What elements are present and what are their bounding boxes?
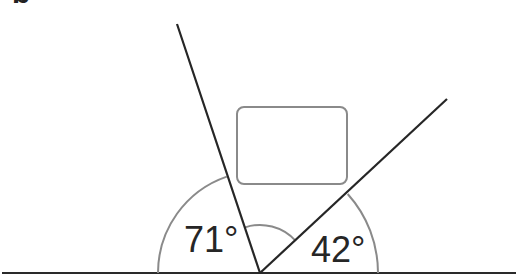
angle-label-71: 71° <box>184 222 238 258</box>
inner-arc <box>244 225 295 241</box>
panel-label: b <box>12 0 30 8</box>
angle-diagram: b 71° 42° <box>0 0 521 275</box>
rounded-rectangle <box>237 107 347 184</box>
angle-label-42: 42° <box>311 232 365 268</box>
diagram-canvas <box>0 0 521 275</box>
